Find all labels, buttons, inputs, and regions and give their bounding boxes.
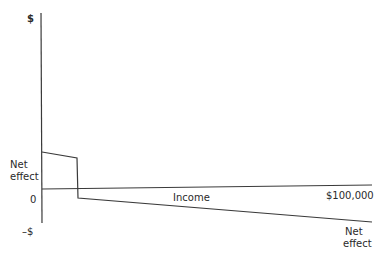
net-effect-diagram xyxy=(0,0,380,264)
curve-net-effect-label-line1: Net xyxy=(345,226,363,238)
curve-net-effect-label-line2: effect xyxy=(343,238,372,250)
y-axis-bottom-label: –$ xyxy=(22,226,33,238)
y-axis-net-effect-label-line1: Net xyxy=(10,159,28,171)
y-axis xyxy=(41,13,42,223)
x-axis-end-label: $100,000 xyxy=(326,190,374,202)
income-axis xyxy=(42,185,372,189)
x-axis-label: Income xyxy=(173,192,210,204)
y-axis-top-label: $ xyxy=(27,13,34,25)
y-axis-net-effect-label-line2: effect xyxy=(10,171,39,183)
y-axis-zero-label: 0 xyxy=(30,194,36,206)
